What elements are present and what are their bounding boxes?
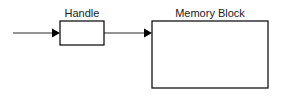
memory-block-label: Memory Block	[175, 7, 245, 19]
edge-incoming-arrow	[13, 29, 60, 38]
handle-box	[60, 21, 104, 45]
node-handle: Handle	[60, 7, 104, 45]
memory-block-box	[152, 21, 268, 88]
node-memory-block: Memory Block	[152, 7, 268, 88]
diagram-canvas: Handle Memory Block	[0, 0, 282, 97]
arrowhead-icon-handle-to-memory	[144, 29, 152, 38]
arrowhead-icon-incoming	[52, 29, 60, 38]
diagram-svg: Handle Memory Block	[0, 0, 282, 97]
handle-label: Handle	[65, 7, 100, 19]
